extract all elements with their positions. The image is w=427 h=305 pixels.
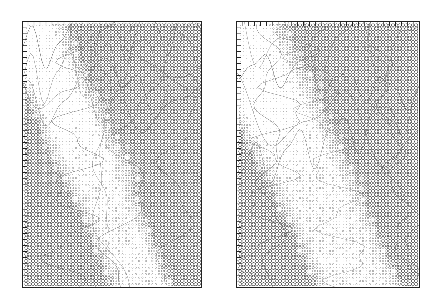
right-panel-symbol-grid [236,21,420,288]
left-panel[interactable] [22,21,202,288]
figure-root [0,0,427,305]
left-panel-symbol-grid [22,21,202,288]
right-panel[interactable] [236,21,420,288]
